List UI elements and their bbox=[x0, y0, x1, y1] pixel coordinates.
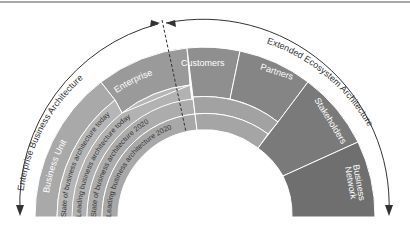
arrow-head-right-up bbox=[166, 20, 176, 27]
architecture-diagram: Enterprise Business Architecture Extende… bbox=[0, 0, 410, 225]
arrow-head-left-up bbox=[150, 20, 160, 27]
arrow-head-left-down bbox=[16, 205, 24, 216]
arrow-head-right-down bbox=[385, 205, 393, 216]
label-customers: Customers bbox=[181, 58, 225, 68]
